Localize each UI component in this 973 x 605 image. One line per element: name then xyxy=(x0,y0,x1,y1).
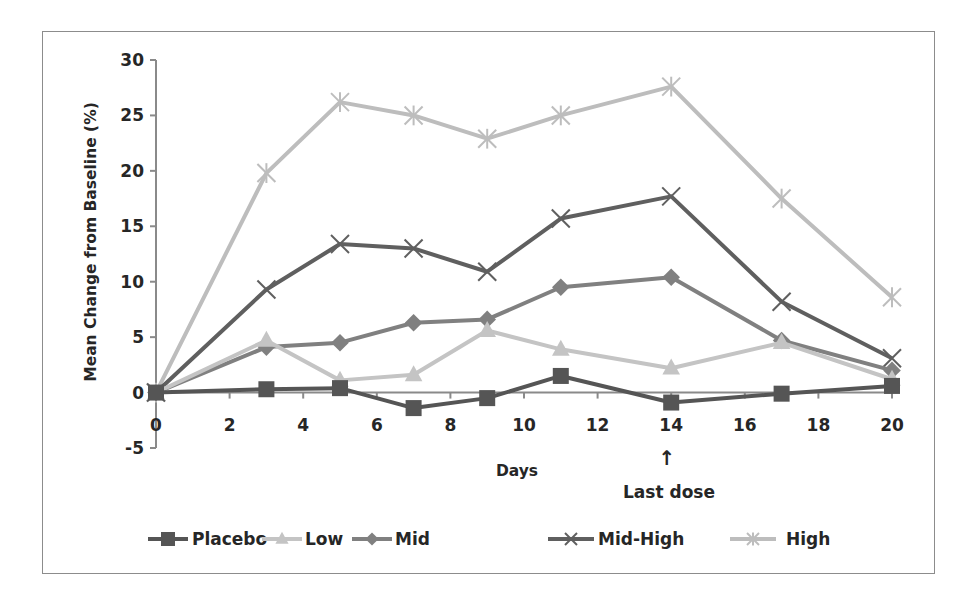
legend-item-low: Low xyxy=(262,529,344,549)
y-tick-label: 30 xyxy=(120,50,144,70)
x-tick-label: 10 xyxy=(512,415,536,435)
legend-label: High xyxy=(786,529,830,549)
series-high xyxy=(147,77,901,403)
data-point-placebo xyxy=(258,381,274,397)
data-point-legend xyxy=(161,532,175,546)
x-tick-label: 12 xyxy=(586,415,610,435)
data-point-placebo xyxy=(479,390,495,406)
series-mid-high xyxy=(147,187,901,401)
x-tick-label: 2 xyxy=(224,415,236,435)
x-tick-label: 0 xyxy=(150,415,162,435)
data-point-placebo xyxy=(663,395,679,411)
series-layer xyxy=(147,77,901,416)
legend-item-mid: Mid xyxy=(352,529,430,549)
y-tick-label: 20 xyxy=(120,161,144,181)
legend-item-mid-high: Mid-High xyxy=(548,529,684,549)
data-point-legend xyxy=(365,532,378,545)
data-point-high xyxy=(257,163,275,183)
x-tick-label: 18 xyxy=(807,415,831,435)
data-point-high xyxy=(773,189,791,209)
legend-item-high: High xyxy=(730,529,830,549)
x-tick-label: 14 xyxy=(659,415,683,435)
legend-label: Mid xyxy=(395,529,430,549)
x-tick-label: 4 xyxy=(297,415,309,435)
data-point-placebo xyxy=(884,378,900,394)
legend-label: Low xyxy=(305,529,344,549)
data-point-mid xyxy=(552,278,570,296)
y-tick-label: 25 xyxy=(120,105,144,125)
x-tick-label: 6 xyxy=(371,415,383,435)
data-point-mid-high xyxy=(257,280,275,298)
series-line-mid-high xyxy=(156,196,892,392)
last-dose-arrow-icon: ↑ xyxy=(659,446,676,470)
data-point-placebo xyxy=(148,385,164,401)
line-chart: -505101520253002468101214161820 Days Mea… xyxy=(0,0,973,605)
legend-label: Mid-High xyxy=(598,529,684,549)
data-point-high xyxy=(883,287,901,307)
data-point-placebo xyxy=(406,400,422,416)
y-tick-label: 5 xyxy=(132,327,144,347)
data-point-mid xyxy=(405,314,423,332)
legend: PlaceboLowMidMid-HighHigh xyxy=(148,529,830,549)
y-tick-label: 15 xyxy=(120,216,144,236)
y-tick-label: 0 xyxy=(132,383,144,403)
data-point-mid xyxy=(331,334,349,352)
data-point-mid xyxy=(662,268,680,286)
data-point-placebo xyxy=(774,386,790,402)
data-point-low xyxy=(478,321,496,337)
legend-label: Placebo xyxy=(192,529,267,549)
x-axis-title: Days xyxy=(496,462,538,480)
data-point-mid-high xyxy=(773,293,791,311)
last-dose-annotation: Last dose xyxy=(623,482,715,502)
data-point-placebo xyxy=(332,380,348,396)
y-tick-label: 10 xyxy=(120,272,144,292)
x-tick-label: 16 xyxy=(733,415,757,435)
y-axis-title: Mean Change from Baseline (%) xyxy=(82,102,100,382)
x-tick-label: 20 xyxy=(880,415,904,435)
legend-item-placebo: Placebo xyxy=(148,529,267,549)
data-point-low xyxy=(258,331,276,347)
y-tick-label: -5 xyxy=(125,438,144,458)
data-point-placebo xyxy=(553,368,569,384)
x-tick-label: 8 xyxy=(444,415,456,435)
